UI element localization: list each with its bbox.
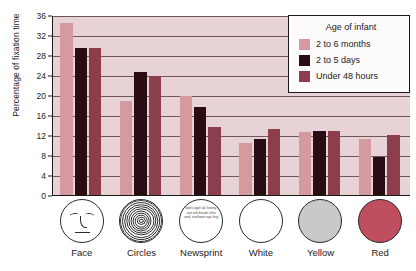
legend-title: Age of infant [299, 22, 403, 32]
legend-swatch-icon-2 [299, 71, 310, 82]
newsprint-text: does appl ud, honey, wat erb bread; who … [180, 200, 222, 242]
x-category-face: Face [52, 199, 112, 258]
legend-entry-2: Under 48 hours [299, 68, 403, 84]
legend-label-0: 2 to 6 months [316, 39, 371, 49]
bar-face-2-to-6-months [60, 23, 73, 196]
bar-face-2-to-5-days [75, 48, 88, 195]
bar-circles-2-to-5-days [134, 72, 147, 196]
y-tick-label-8: 8 [41, 151, 46, 161]
red-disc-icon [358, 199, 402, 243]
x-category-circles: Circles [112, 199, 172, 258]
bar-face-under-48-hours [89, 48, 102, 195]
y-tick-label-12: 12 [37, 131, 46, 141]
white-disc-icon [239, 199, 283, 243]
bar-group-newsprint [172, 16, 232, 195]
yellow-disc-icon [298, 199, 342, 243]
legend-label-2: Under 48 hours [316, 71, 378, 81]
legend-swatch-icon-0 [299, 39, 310, 50]
bar-circles-2-to-6-months [120, 101, 133, 195]
fixation-time-bar-chart: Percentage of fixation time 048121620242… [0, 0, 416, 271]
bar-white-under-48-hours [268, 129, 281, 195]
bar-white-2-to-5-days [254, 139, 267, 195]
legend-entry-1: 2 to 5 days [299, 52, 403, 68]
y-tick-label-16: 16 [37, 111, 46, 121]
y-tick-label-32: 32 [37, 31, 46, 41]
y-tick-label-0: 0 [41, 191, 46, 201]
x-label-yellow: Yellow [291, 247, 351, 258]
bar-newsprint-under-48-hours [208, 127, 221, 196]
x-category-newsprint: does appl ud, honey, wat erb bread; who … [171, 199, 231, 258]
bar-white-2-to-6-months [239, 143, 252, 195]
bar-newsprint-2-to-6-months [180, 96, 193, 196]
y-tick-label-4: 4 [41, 171, 46, 181]
y-tick-label-28: 28 [37, 51, 46, 61]
bar-red-2-to-6-months [359, 139, 372, 195]
bar-red-2-to-5-days [373, 157, 386, 195]
face-icon [60, 199, 104, 243]
y-tick-label-24: 24 [37, 71, 46, 81]
x-label-white: White [231, 247, 291, 258]
bar-group-face [53, 16, 113, 195]
x-label-newsprint: Newsprint [171, 247, 231, 258]
y-axis-ticks: 04812162024283236 [0, 16, 52, 196]
x-label-circles: Circles [112, 247, 172, 258]
bar-newsprint-2-to-5-days [194, 107, 207, 196]
legend: Age of infant 2 to 6 months2 to 5 daysUn… [288, 15, 410, 93]
bar-yellow-2-to-6-months [299, 132, 312, 195]
x-category-yellow: Yellow [291, 199, 351, 258]
x-label-red: Red [350, 247, 410, 258]
newsprint-icon: does appl ud, honey, wat erb bread; who … [179, 199, 223, 243]
bar-circles-under-48-hours [149, 76, 162, 196]
y-tick-label-20: 20 [37, 91, 46, 101]
x-category-red: Red [350, 199, 410, 258]
x-axis-categories: FaceCirclesdoes appl ud, honey, wat erb … [52, 199, 410, 271]
x-label-face: Face [52, 247, 112, 258]
x-category-white: White [231, 199, 291, 258]
bar-yellow-2-to-5-days [313, 131, 326, 195]
bar-yellow-under-48-hours [328, 131, 341, 195]
bar-group-white [232, 16, 292, 195]
legend-swatch-icon-1 [299, 55, 310, 66]
legend-entries: 2 to 6 months2 to 5 daysUnder 48 hours [297, 36, 403, 84]
y-tick-label-36: 36 [37, 11, 46, 21]
bar-red-under-48-hours [387, 135, 400, 196]
bar-group-circles [113, 16, 173, 195]
legend-entry-0: 2 to 6 months [299, 36, 403, 52]
legend-label-1: 2 to 5 days [316, 55, 360, 65]
concentric-circles-icon [119, 199, 163, 243]
